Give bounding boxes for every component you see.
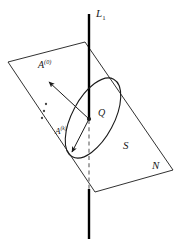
- ellipsis-dots: [41, 103, 47, 119]
- label-line-l1: L1: [96, 8, 106, 19]
- label-vector-a-k-superscript: (k): [61, 125, 67, 131]
- label-vector-a-initial: A(0): [38, 60, 51, 70]
- label-vector-a-initial-superscript: (0): [44, 58, 51, 65]
- label-line-l1-subscript: 1: [102, 14, 105, 21]
- label-curve-s: S: [123, 140, 129, 151]
- label-plane-n: N: [152, 160, 159, 171]
- vector-a-initial: [49, 82, 89, 119]
- figure-canvas: L1 A(0) A(k) Q S N: [0, 0, 182, 242]
- plane-outline: [8, 42, 173, 192]
- label-point-q: Q: [98, 108, 105, 118]
- ellipse-curve-s: [54, 69, 132, 166]
- vector-a-k: [72, 119, 89, 152]
- geometry-diagram-svg: [0, 0, 182, 242]
- label-vector-a-k: A(k): [55, 127, 67, 136]
- point-q-marker: [87, 117, 91, 121]
